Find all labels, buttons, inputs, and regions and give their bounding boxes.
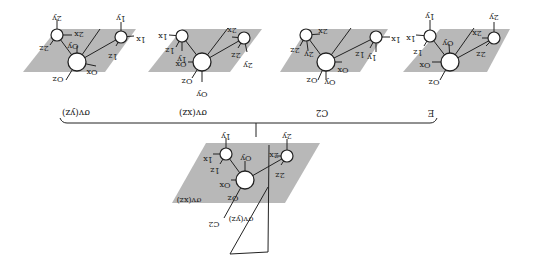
- label: 1y: [425, 12, 435, 21]
- label: 2x: [472, 29, 482, 38]
- axis-label-c2: C2: [208, 220, 219, 229]
- label: 1y: [221, 132, 231, 141]
- label: 2y: [52, 14, 62, 23]
- label: 1y: [367, 53, 377, 62]
- label: 2z: [290, 46, 299, 55]
- reference-molecule: 1y 1x 1z 2y 2x 2z Oy Ox Oz σv(xz) σv(yz)…: [172, 132, 320, 254]
- label: Oy: [324, 78, 336, 87]
- panel-sigma-v-yz: 2y 2x 2z 1y 1x 1z Oy Ox Oz: [23, 14, 146, 84]
- label: 1z: [165, 46, 174, 55]
- label: 2z: [275, 171, 284, 180]
- label: 2y: [243, 61, 253, 70]
- label: Oy: [67, 42, 79, 51]
- hydrogen-atom-2: [238, 32, 250, 44]
- label: Oz: [429, 78, 440, 87]
- oxygen-atom: [317, 53, 335, 71]
- hydrogen-atom-2: [281, 150, 293, 162]
- operation-label-identity: E: [428, 108, 435, 118]
- hydrogen-atom-2: [488, 32, 500, 44]
- label: 2x: [74, 30, 84, 39]
- label: 1z: [413, 48, 422, 57]
- label: 1z: [355, 50, 364, 59]
- oxygen-atom: [68, 53, 86, 71]
- label: 2x: [227, 26, 237, 35]
- label: Ox: [175, 60, 187, 69]
- label: 2x: [318, 27, 328, 36]
- hydrogen-atom-2: [300, 29, 312, 41]
- operation-label-sigma-v-xz: σv(xz): [179, 108, 207, 118]
- panel-c2: 2x 2z 2y 1x 1z 1y Ox Oz Oy: [280, 27, 401, 87]
- oxygen-atom: [441, 53, 459, 71]
- label: 1x: [158, 32, 168, 41]
- hydrogen-atom-1: [220, 148, 232, 160]
- label: Oy: [442, 39, 454, 48]
- hydrogen-atom-1: [424, 30, 436, 42]
- label: 1z: [210, 166, 219, 175]
- operation-label-sigma-v-yz: σv(yz): [62, 108, 90, 118]
- label: 1x: [391, 35, 401, 44]
- panel-identity: 1y 1x 1z 2y 2x 2z Oy Ox Oz: [403, 12, 510, 87]
- symmetry-diagram: 2y 2x 2z 1y 1x 1z Oy Ox Oz 1x 1z 1y 2x 2…: [0, 0, 536, 275]
- label: 2x: [269, 151, 279, 160]
- label: 2y: [304, 50, 314, 59]
- label: 1x: [136, 35, 146, 44]
- label: 1x: [203, 155, 213, 164]
- label: Ox: [86, 68, 98, 77]
- label: Oz: [307, 76, 318, 85]
- label: 2y: [282, 132, 292, 141]
- label: Ox: [219, 181, 231, 190]
- label: Oy: [240, 154, 252, 163]
- operation-label-c2: C2: [316, 108, 329, 118]
- label: 1z: [108, 52, 117, 61]
- label: 1x: [406, 34, 416, 43]
- label: 2z: [476, 50, 485, 59]
- label: 2y: [489, 13, 499, 22]
- hydrogen-atom-2: [51, 29, 63, 41]
- plane-label-sigma-v-yz: σv(yz): [229, 215, 254, 224]
- hydrogen-atom-1: [115, 31, 127, 43]
- plane-label-sigma-v-xz: σv(xz): [177, 196, 202, 205]
- label: Oz: [53, 75, 64, 84]
- label: 2z: [39, 44, 48, 53]
- label: Oz: [182, 77, 193, 86]
- grouping-bracket: [60, 118, 437, 123]
- oxygen-atom: [193, 53, 211, 71]
- label: 1y: [116, 14, 126, 23]
- label: Ox: [337, 66, 349, 75]
- hydrogen-atom-1: [370, 31, 382, 43]
- label: Oz: [228, 194, 239, 203]
- label: 2z: [231, 51, 240, 60]
- hydrogen-atom-1: [176, 30, 188, 42]
- label: Oy: [196, 90, 208, 99]
- oxygen-atom: [236, 171, 254, 189]
- label: Ox: [419, 61, 431, 70]
- panel-sigma-v-xz: 1x 1z 1y 2x 2z 2y Ox Oz Oy: [148, 26, 262, 99]
